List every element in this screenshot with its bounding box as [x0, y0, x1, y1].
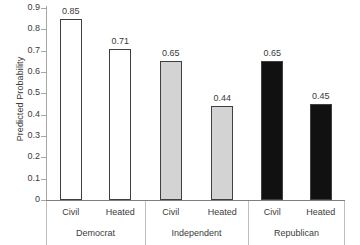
y-axis-tick-label: 0.2: [12, 152, 40, 161]
x-axis-tick-label: Heated: [291, 207, 351, 217]
y-axis-tick-label: 0.7: [12, 46, 40, 55]
bar: [310, 104, 332, 200]
category-axis-edge: [344, 201, 345, 245]
y-axis-tick-label: 0: [12, 195, 40, 204]
bar-value-label: 0.71: [100, 36, 140, 46]
bar-value-label: 0.45: [301, 91, 341, 101]
bar: [109, 49, 131, 200]
category-axis-edge: [46, 201, 47, 245]
y-axis-tick-mark: [41, 157, 46, 158]
bar-chart: Predicted Probability 0.90.80.70.60.50.4…: [0, 0, 360, 245]
y-axis-tick-mark: [41, 136, 46, 137]
bar: [60, 19, 82, 200]
category-separator: [145, 201, 146, 245]
y-axis-tick-mark: [41, 93, 46, 94]
y-axis-tick-label: 0.1: [12, 174, 40, 183]
y-axis-tick-labels: 0.90.80.70.60.50.40.30.20.10: [10, 0, 40, 245]
category-axis: CivilHeatedDemocratCivilHeatedIndependen…: [46, 201, 345, 245]
bar-value-label: 0.65: [151, 48, 191, 58]
y-axis-tick-label: 0.6: [12, 67, 40, 76]
bar-value-label: 0.65: [252, 48, 292, 58]
y-axis-tick-mark: [41, 29, 46, 30]
y-axis-tick-label: 0.4: [12, 110, 40, 119]
plot-area: 0.850.710.650.440.650.45: [46, 8, 345, 200]
y-axis-tick-mark: [41, 8, 46, 9]
y-axis-tick-mark: [41, 51, 46, 52]
bar-value-label: 0.85: [51, 6, 91, 16]
y-axis-tick-label: 0.9: [12, 3, 40, 12]
y-axis-tick-mark: [41, 72, 46, 73]
bar: [211, 106, 233, 200]
y-axis-tick-mark: [41, 115, 46, 116]
y-axis-tick-label: 0.5: [12, 88, 40, 97]
bar: [160, 61, 182, 200]
y-axis-tick-label: 0.3: [12, 131, 40, 140]
bar: [261, 61, 283, 200]
category-separator: [248, 201, 249, 245]
y-axis-tick-mark: [41, 200, 46, 201]
x-axis-group-label: Republican: [237, 228, 357, 238]
y-axis-tick-label: 0.8: [12, 24, 40, 33]
y-axis-tick-mark: [41, 179, 46, 180]
bar-value-label: 0.44: [202, 93, 242, 103]
